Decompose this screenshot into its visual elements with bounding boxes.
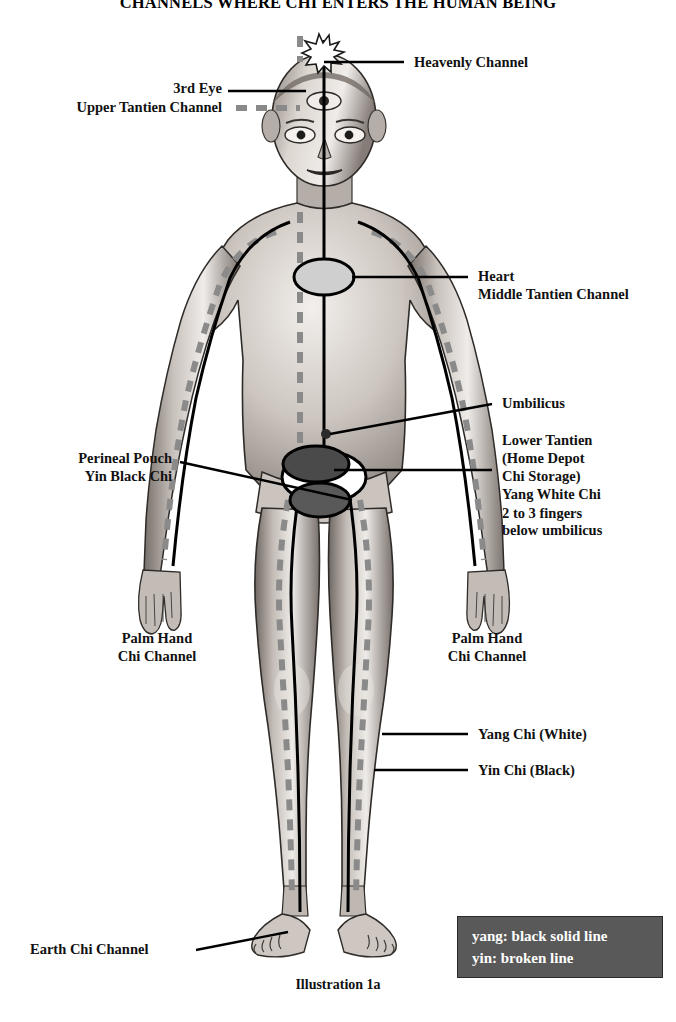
- label-yin-chi-black: Yin Chi (Black): [478, 762, 575, 780]
- label-home-depot: (Home Depot: [502, 450, 585, 468]
- illustration-page: CHANNELS WHERE CHI ENTERS THE HUMAN BEIN…: [0, 0, 676, 1022]
- label-palm-hand-left-line1: Palm Hand: [82, 630, 232, 648]
- label-third-eye: 3rd Eye: [40, 80, 222, 98]
- label-heavenly-channel: Heavenly Channel: [414, 54, 528, 72]
- label-umbilicus: Umbilicus: [502, 395, 565, 413]
- label-heart: Heart: [478, 268, 514, 286]
- label-palm-hand-right-line2: Chi Channel: [412, 648, 562, 666]
- label-chi-storage: Chi Storage): [502, 468, 581, 486]
- label-earth-chi-channel: Earth Chi Channel: [30, 941, 148, 959]
- figure-caption: Illustration 1a: [0, 977, 676, 993]
- label-palm-hand-right-line1: Palm Hand: [412, 630, 562, 648]
- heart-marker: [294, 259, 354, 295]
- label-middle-tantien-channel: Middle Tantien Channel: [478, 286, 629, 304]
- label-palm-hand-left-line2: Chi Channel: [82, 648, 232, 666]
- umbilicus-marker: [321, 429, 331, 439]
- label-perineal-pouch: Perineal Pouch: [8, 450, 172, 468]
- label-lower-tantien: Lower Tantien: [502, 432, 592, 450]
- label-yang-white-chi: Yang White Chi: [502, 486, 601, 504]
- lower-tantien-marker: [283, 446, 349, 482]
- legend-yin-line: yin: broken line: [472, 947, 662, 969]
- label-fingers-note-2: below umbilicus: [502, 522, 602, 540]
- legend-yang-line: yang: black solid line: [472, 925, 662, 947]
- label-yang-chi-white: Yang Chi (White): [478, 726, 587, 744]
- legend-box: yang: black solid line yin: broken line: [457, 916, 663, 978]
- label-yin-black-chi: Yin Black Chi: [8, 468, 172, 486]
- label-fingers-note-1: 2 to 3 fingers: [502, 505, 582, 523]
- label-upper-tantien-channel: Upper Tantien Channel: [20, 99, 222, 117]
